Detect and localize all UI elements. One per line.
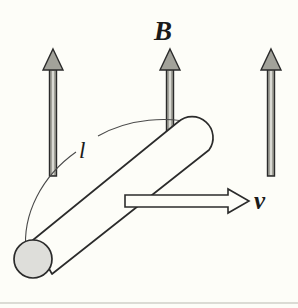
physics-figure: B v l [0,0,298,308]
velocity-label: v [254,188,265,213]
length-label: l [79,139,85,162]
figure-canvas [0,0,298,308]
magnetic-field-label: B [154,18,172,45]
rod-end-cap [14,240,52,278]
